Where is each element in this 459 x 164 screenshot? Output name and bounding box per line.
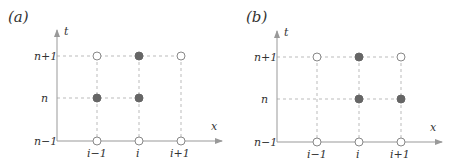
panel-a-tlabel-n-1: n−1 <box>34 135 57 148</box>
panel-a-point-open <box>177 137 185 145</box>
panel-b-xlabel-i: i <box>356 148 360 161</box>
panel-b-tlabel-n+1: n+1 <box>254 51 277 64</box>
panel-b-label: (b) <box>246 8 267 26</box>
panel-b-point-open <box>313 138 321 146</box>
panel-b-point-filled <box>397 95 405 103</box>
panel-a-tlabel-n+1: n+1 <box>34 50 57 63</box>
panel-b-point-open <box>397 53 405 61</box>
panel-b: (b) t x n+1 n n−1 i−1 i i+1 <box>246 8 442 161</box>
panel-b-point-open <box>313 53 321 61</box>
panel-b-point-filled <box>355 53 363 61</box>
panel-b-point-open <box>397 138 405 146</box>
panel-a-point-open <box>93 137 101 145</box>
panel-a-grid <box>57 56 181 141</box>
panel-a: (a) t x n+1 n n−1 i−1 i i+1 <box>8 8 222 160</box>
panel-a-xlabel-i: i <box>136 147 140 160</box>
panel-b-xlabel-i-1: i−1 <box>307 148 327 161</box>
panel-a-xlabel-i-1: i−1 <box>87 147 107 160</box>
panel-a-point-filled <box>135 94 143 102</box>
panel-a-point-filled <box>135 52 143 60</box>
panel-a-xlabel-i+1: i+1 <box>170 147 190 160</box>
panel-a-t-label: t <box>64 25 69 38</box>
panel-b-t-label: t <box>284 26 289 39</box>
panel-a-point-open <box>177 52 185 60</box>
panel-a-point-open <box>93 52 101 60</box>
panel-a-point-open <box>135 137 143 145</box>
panel-b-point-open <box>355 138 363 146</box>
panel-a-point-filled <box>93 94 101 102</box>
panel-b-xlabel-i+1: i+1 <box>390 148 410 161</box>
panel-b-x-label: x <box>430 121 437 134</box>
panel-b-tlabel-n: n <box>261 93 268 106</box>
panel-b-point-filled <box>355 95 363 103</box>
stencil-diagram: (a) t x n+1 n n−1 i−1 i i+1 (b) <box>0 0 459 164</box>
panel-a-tlabel-n: n <box>41 92 48 105</box>
panel-b-grid <box>277 57 401 142</box>
panel-b-tlabel-n-1: n−1 <box>254 136 277 149</box>
panel-a-x-label: x <box>211 120 218 133</box>
panel-a-label: (a) <box>8 8 29 26</box>
